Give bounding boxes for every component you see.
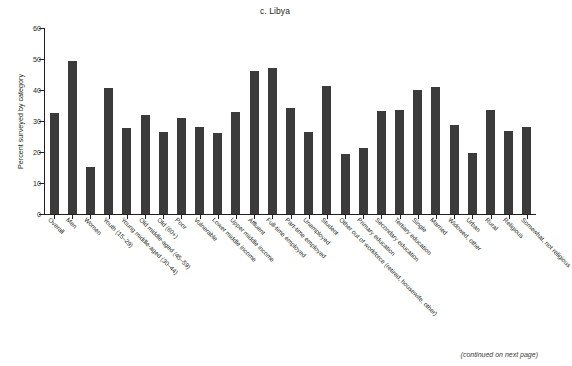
x-axis-label: Women [84, 216, 104, 236]
bar [395, 110, 404, 214]
y-tick-label: 10 [33, 179, 41, 188]
chart-title: c. Libya [0, 6, 550, 16]
bar [504, 131, 513, 214]
bar [268, 68, 277, 214]
bar [141, 115, 150, 214]
x-axis-label: Men [65, 216, 79, 230]
bar [250, 71, 259, 214]
y-axis-title: Percent surveyed by category [14, 28, 28, 214]
bar [50, 113, 59, 214]
bar [68, 61, 77, 214]
bar [341, 154, 350, 214]
y-tick-label: 50 [33, 55, 41, 64]
bar [231, 112, 240, 214]
y-tick-label: 20 [33, 148, 41, 157]
x-axis-label: Poor [174, 216, 188, 230]
bar [486, 110, 495, 214]
plot-area: 0102030405060 [44, 28, 536, 214]
bar [86, 167, 95, 214]
bar [213, 133, 222, 214]
bar [322, 86, 331, 214]
bar [522, 127, 531, 214]
x-axis-label: Overall [47, 216, 66, 235]
bar [359, 148, 368, 214]
bar [159, 132, 168, 214]
y-axis-title-text: Percent surveyed by category [17, 73, 26, 168]
y-tick-label: 0 [37, 210, 41, 219]
bar [104, 88, 113, 214]
y-tick-label: 40 [33, 86, 41, 95]
bar [286, 108, 295, 214]
x-axis-label: Married [429, 216, 449, 236]
bar [177, 118, 186, 214]
x-axis-label: Rural [484, 216, 500, 232]
bar [450, 125, 459, 214]
bar [413, 90, 422, 214]
x-axis-labels: OverallMenWomenYouth (15–29)Young middle… [45, 216, 536, 336]
footer-note: (continued on next page) [461, 351, 538, 358]
bar [468, 153, 477, 214]
x-axis-label: Somewhat, not religious [520, 216, 572, 268]
y-tick-label: 30 [33, 117, 41, 126]
bar [377, 111, 386, 214]
bar [122, 128, 131, 214]
x-axis-label: Urban [465, 216, 482, 233]
bar-series [45, 28, 536, 214]
bar [304, 132, 313, 214]
bar [431, 87, 440, 214]
bar [195, 127, 204, 214]
y-tick-label: 60 [33, 24, 41, 33]
